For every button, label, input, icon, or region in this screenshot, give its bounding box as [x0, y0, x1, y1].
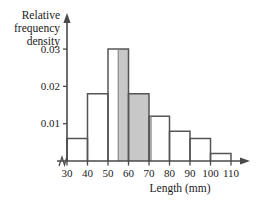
x-tick-label: 40	[82, 167, 94, 179]
shaded-region	[118, 49, 151, 161]
x-axis-arrow-icon	[240, 157, 250, 164]
y-axis-title-line: Relative	[22, 9, 60, 21]
x-axis-title: Length (mm)	[150, 182, 211, 195]
histogram-bar	[88, 94, 109, 161]
histogram-bar	[67, 139, 88, 161]
x-tick-label: 70	[144, 167, 156, 179]
histogram-bars	[67, 49, 231, 161]
histogram-figure: 0.010.020.03 30405060708090100110 Relati…	[0, 0, 264, 205]
histogram-bar	[190, 139, 211, 161]
histogram-bar	[211, 154, 232, 161]
y-axis-tick-labels: 0.010.020.03	[41, 43, 61, 130]
y-tick-label: 0.02	[41, 80, 60, 92]
histogram-bar	[149, 116, 170, 161]
x-tick-label: 80	[164, 167, 176, 179]
histogram-bar	[170, 131, 191, 161]
y-axis-title: Relativefrequencydensity	[14, 9, 60, 48]
relative-frequency-density-histogram: 0.010.020.03 30405060708090100110 Relati…	[0, 0, 264, 205]
x-axis-tick-labels: 30405060708090100110	[62, 167, 240, 179]
x-tick-label: 50	[103, 167, 115, 179]
axis-break-zigzag-icon	[59, 157, 67, 166]
x-tick-label: 90	[185, 167, 197, 179]
y-axis-title-line: frequency	[14, 22, 60, 35]
x-tick-label: 60	[123, 167, 135, 179]
x-tick-label: 110	[223, 167, 240, 179]
y-axis-title-line: density	[27, 35, 60, 48]
shaded-segment	[118, 49, 128, 161]
x-tick-label: 100	[202, 167, 219, 179]
x-tick-label: 30	[62, 167, 74, 179]
y-axis-arrow-icon	[63, 13, 70, 23]
shaded-segment	[129, 94, 150, 161]
y-tick-label: 0.01	[41, 117, 60, 129]
axes	[57, 13, 250, 166]
